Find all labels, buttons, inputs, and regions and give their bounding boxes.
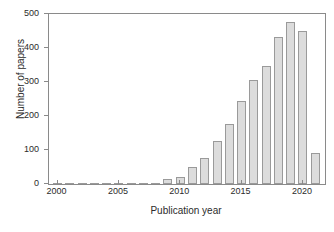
x-tick-mark-2015 (241, 180, 242, 184)
bar-2021 (311, 153, 320, 184)
bar-chart-figure: Number of papers 0100200300400500 200020… (0, 0, 334, 232)
bar-2011 (188, 167, 197, 184)
x-tick-mark-2005 (118, 180, 119, 184)
x-tick-mark-2010 (179, 180, 180, 184)
bar-2017 (262, 66, 271, 184)
x-tick-label-2000: 2000 (47, 187, 67, 196)
y-tick-label-300: 300 (24, 77, 39, 86)
bar-2014 (225, 124, 234, 184)
bar-2016 (249, 80, 258, 184)
x-tick-mark-2020 (302, 180, 303, 184)
bar-2020 (298, 31, 307, 184)
x-tick-label-2020: 2020 (292, 187, 312, 196)
bar-2012 (200, 158, 209, 184)
y-tick-label-200: 200 (24, 111, 39, 120)
bar-2018 (274, 37, 283, 184)
bar-2013 (213, 141, 222, 184)
y-tick-label-400: 400 (24, 43, 39, 52)
x-axis: 20002005201020152020 (0, 184, 334, 206)
plot-area (48, 13, 326, 185)
x-tick-mark-2000 (57, 180, 58, 184)
x-tick-label-2005: 2005 (108, 187, 128, 196)
y-tick-label-500: 500 (24, 9, 39, 18)
y-axis: 0100200300400500 (0, 0, 48, 184)
bar-2019 (286, 22, 295, 184)
bar-2010 (176, 177, 185, 184)
bars-layer (49, 14, 325, 184)
bar-2015 (237, 101, 246, 184)
y-tick-label-100: 100 (24, 145, 39, 154)
x-tick-label-2015: 2015 (231, 187, 251, 196)
x-axis-title: Publication year (48, 205, 324, 216)
x-tick-label-2010: 2010 (169, 187, 189, 196)
